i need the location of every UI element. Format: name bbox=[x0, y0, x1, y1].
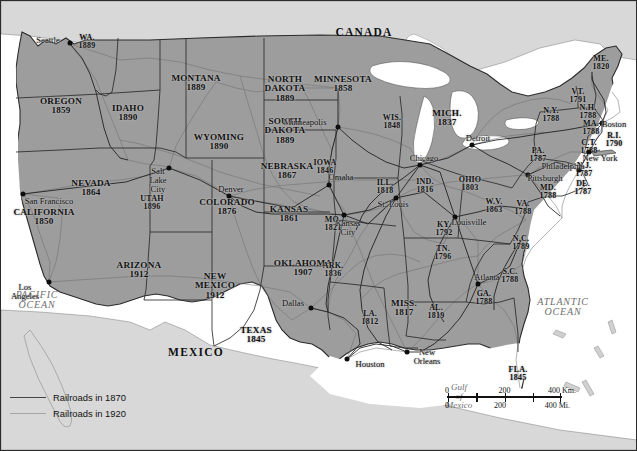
railroad-map: WA.1889OREGON1859IDAHO1890MONTANA1889WYO… bbox=[0, 0, 637, 451]
map-frame bbox=[0, 0, 637, 451]
